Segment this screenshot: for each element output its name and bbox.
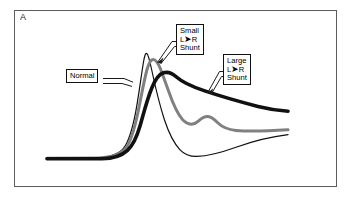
callout-large-line3: Shunt — [227, 74, 247, 83]
leader-small-shunt — [158, 42, 179, 64]
callout-small-line3: Shunt — [180, 44, 200, 53]
callout-normal-label: Normal — [70, 72, 94, 81]
callout-normal[interactable]: Normal — [66, 69, 98, 83]
figure-root: A Normal Small L➤R Shunt — [0, 0, 353, 199]
callout-large-shunt[interactable]: Large L➤R Shunt — [223, 54, 251, 85]
callout-small-shunt[interactable]: Small L➤R Shunt — [176, 24, 204, 55]
leader-large-shunt — [208, 72, 225, 95]
leader-normal — [103, 79, 133, 87]
